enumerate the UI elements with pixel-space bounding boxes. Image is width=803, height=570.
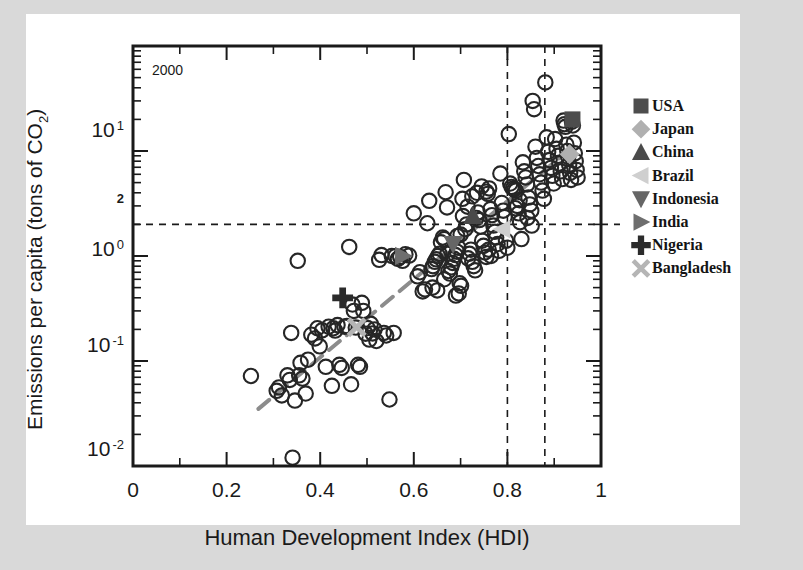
- legend-label-china: China: [652, 143, 694, 160]
- y-tick-label-10e-1: 10-1: [87, 333, 124, 356]
- legend-label-brazil: Brazil: [652, 167, 694, 184]
- y-tick-label-two: 2: [117, 191, 124, 206]
- x-tick-label-0: 0: [127, 478, 139, 501]
- x-tick-labels: 00.20.40.60.81: [127, 478, 607, 501]
- x-tick-label-4: 0.8: [493, 478, 522, 501]
- legend-label-indonesia: Indonesia: [652, 190, 719, 207]
- y-axis-label: Emissions per capita (tons of CO2): [23, 109, 51, 430]
- y-tick-label-10e-2: 10-2: [87, 437, 124, 460]
- x-tick-label-5: 1: [595, 478, 607, 501]
- y-axis-label-main: Emissions per capita (tons of CO: [23, 123, 46, 430]
- y-axis-label-tail: ): [23, 109, 46, 116]
- plot-area-background: [133, 46, 601, 466]
- country-marker-usa: [564, 111, 580, 127]
- svg-text:Emissions per capita (tons of: Emissions per capita (tons of CO2): [23, 109, 51, 430]
- legend-marker-nigeria: [631, 235, 650, 255]
- legend-marker-usa: [634, 99, 649, 114]
- x-tick-label-2: 0.4: [306, 478, 336, 501]
- chart-figure: Emissions per capita (tons of CO2) Human…: [0, 0, 803, 570]
- legend-marker-japan: [632, 120, 651, 139]
- x-axis-label: Human Development Index (HDI): [204, 525, 529, 550]
- y-tick-label-10e0: 100: [91, 237, 124, 260]
- y-axis-label-subscript: 2: [36, 116, 51, 123]
- x-tick-label-3: 0.6: [399, 478, 428, 501]
- x-tick-label-1: 0.2: [212, 478, 241, 501]
- legend-label-bangladesh: Bangladesh: [652, 259, 731, 277]
- legend-label-nigeria: Nigeria: [652, 236, 703, 254]
- scatter-plot-svg: Emissions per capita (tons of CO2) Human…: [0, 0, 803, 570]
- legend-marker-india: [634, 213, 651, 230]
- year-annotation: 2000: [152, 62, 183, 78]
- svg-text:Human Development Index (HDI): Human Development Index (HDI): [204, 525, 529, 550]
- legend-marker-bangladesh: [632, 259, 651, 278]
- legend-label-usa: USA: [652, 97, 684, 114]
- y-tick-label-10e1: 101: [91, 118, 124, 141]
- y-tick-labels: 101 100 10-1 10-2 2: [87, 118, 124, 460]
- legend-marker-china: [632, 143, 650, 160]
- legend-marker-brazil: [632, 167, 649, 184]
- legend-label-japan: Japan: [652, 120, 694, 138]
- legend-marker-indonesia: [632, 191, 650, 208]
- legend: USAJapanChinaBrazilIndonesiaIndiaNigeria…: [631, 97, 731, 278]
- legend-label-india: India: [652, 213, 688, 230]
